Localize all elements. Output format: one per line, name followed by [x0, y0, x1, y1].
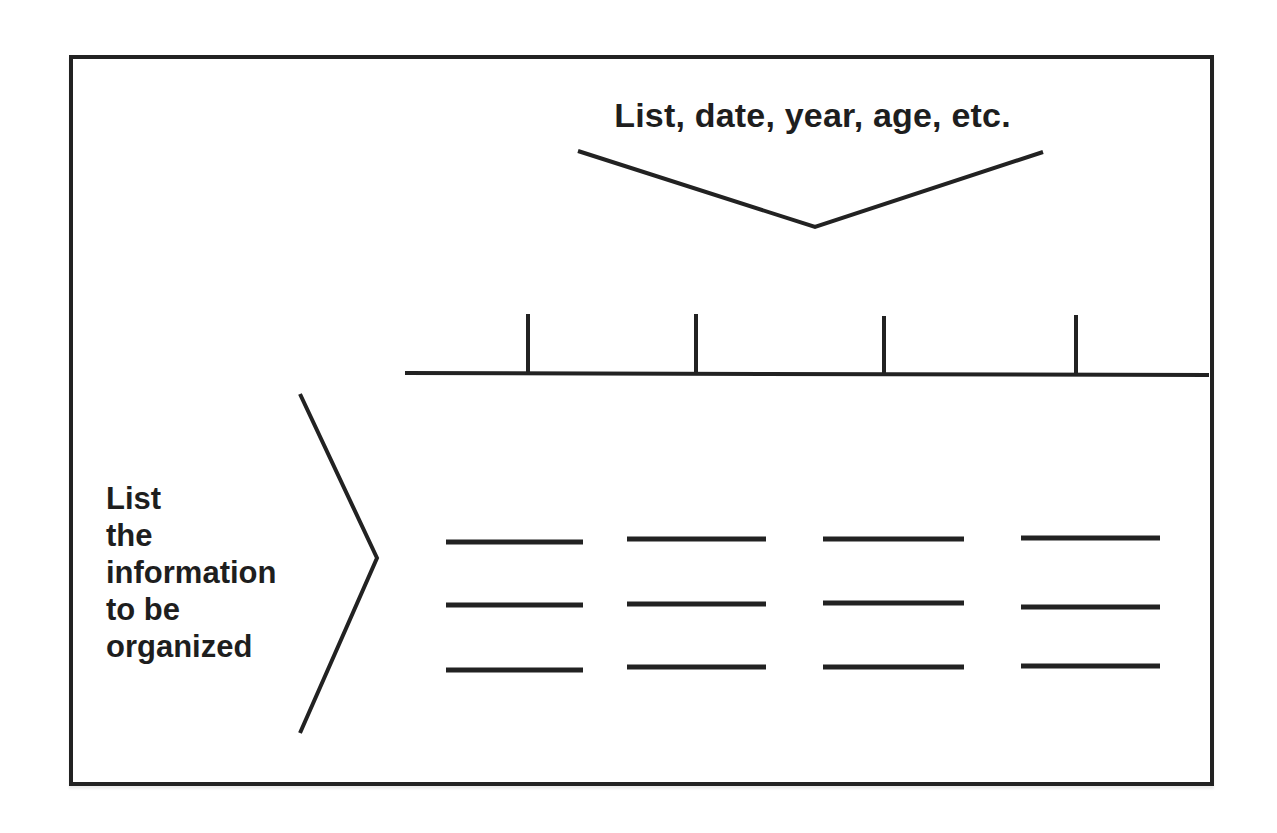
side-label-line-2: the: [106, 517, 277, 554]
top-label: List, date, year, age, etc.: [560, 96, 1065, 135]
side-label-line-1: List: [106, 480, 277, 517]
top-bracket: [578, 151, 1043, 227]
side-label-line-3: information: [106, 554, 277, 591]
side-label-line-4: to be: [106, 591, 277, 628]
timeline-baseline: [405, 373, 1209, 375]
side-label-line-5: organized: [106, 628, 277, 665]
side-bracket: [300, 394, 377, 733]
side-label: List the information to be organized: [106, 480, 277, 665]
